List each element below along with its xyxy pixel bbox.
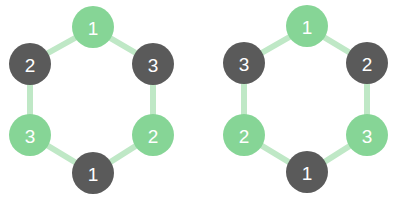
right-node-upper-left: 3	[223, 42, 265, 84]
node-label: 1	[88, 18, 99, 39]
right-node-lower-right: 3	[346, 114, 388, 156]
left-node-lower-right: 2	[132, 114, 174, 156]
left-node-upper-left: 2	[9, 43, 51, 85]
node-label: 2	[362, 54, 373, 75]
node-label: 2	[239, 126, 250, 147]
node-label: 2	[148, 126, 159, 147]
left-node-top: 1	[72, 6, 114, 48]
right-ring-diagram: 1 2 3 1 2 3	[223, 5, 388, 193]
node-label: 3	[25, 126, 36, 147]
left-ring-edges	[30, 28, 153, 173]
node-label: 2	[25, 55, 36, 76]
left-node-lower-left: 3	[9, 114, 51, 156]
node-label: 3	[362, 126, 373, 147]
node-label: 3	[239, 54, 250, 75]
right-node-top: 1	[286, 5, 328, 47]
diagram-canvas: 1 3 2 1 3 2 1 2	[0, 0, 393, 200]
right-node-lower-left: 2	[223, 114, 265, 156]
node-label: 1	[88, 164, 99, 185]
left-ring-diagram: 1 3 2 1 3 2	[9, 6, 174, 194]
left-node-upper-right: 3	[132, 43, 174, 85]
node-label: 3	[148, 55, 159, 76]
node-label: 1	[302, 17, 313, 38]
right-node-bottom: 1	[286, 151, 328, 193]
left-node-bottom: 1	[72, 152, 114, 194]
node-label: 1	[302, 163, 313, 184]
right-node-upper-right: 2	[346, 42, 388, 84]
